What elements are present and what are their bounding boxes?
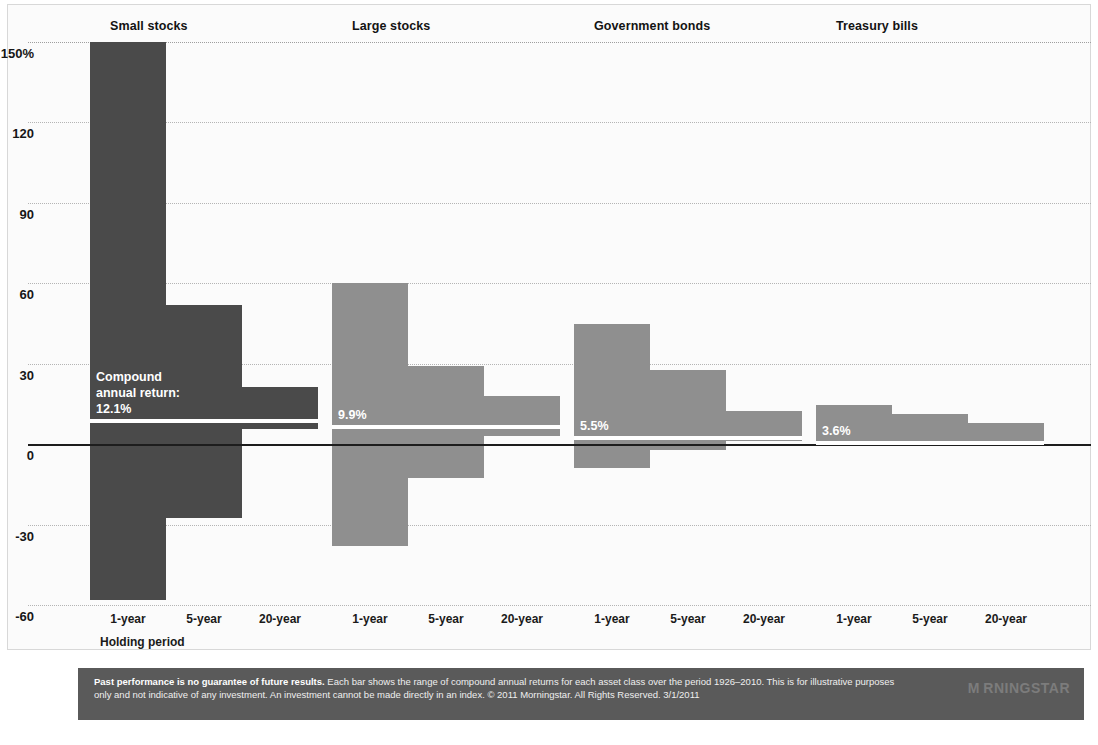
- category-header-large-stocks: Large stocks: [352, 19, 430, 33]
- compound-return-value-treasury-bills: 3.6%: [822, 424, 851, 438]
- y-axis-tick-label: 30: [0, 368, 34, 383]
- gridline: [28, 525, 1091, 526]
- category-header-small-stocks: Small stocks: [110, 19, 188, 33]
- bar-treasury-bills-20-year: [968, 423, 1044, 443]
- x-axis-tick-label: 20-year: [501, 612, 543, 626]
- x-axis-tick-label: 1-year: [352, 612, 387, 626]
- compound-return-caption: Compoundannual return:: [96, 369, 180, 401]
- gridline: [28, 122, 1091, 123]
- gridline: [28, 605, 1091, 606]
- compound-return-rule-large-stocks: [332, 425, 560, 429]
- bar-small-stocks-5-year: [166, 305, 242, 518]
- bar-large-stocks-5-year: [408, 366, 484, 477]
- compound-return-value-large-stocks: 9.9%: [338, 408, 367, 422]
- compound-return-rule-government-bonds: [574, 436, 802, 440]
- category-header-government-bonds: Government bonds: [594, 19, 710, 33]
- x-axis-tick-label: 5-year: [912, 612, 947, 626]
- x-axis-tick-label: 1-year: [836, 612, 871, 626]
- compound-return-value-government-bonds: 5.5%: [580, 419, 609, 433]
- gridline: [28, 203, 1091, 204]
- x-axis-tick-label: 20-year: [985, 612, 1027, 626]
- bar-small-stocks-1-year: [90, 42, 166, 600]
- chart-figure: Small stocks Large stocks Government bon…: [0, 0, 1098, 745]
- y-axis-tick-label: 150%: [0, 46, 34, 61]
- gridline: [28, 42, 1091, 43]
- bar-treasury-bills-5-year: [892, 414, 968, 443]
- x-axis-tick-label: 5-year: [670, 612, 705, 626]
- y-axis-tick-label: 90: [0, 207, 34, 222]
- x-axis-tick-label: 5-year: [428, 612, 463, 626]
- bar-government-bonds-1-year: [574, 324, 650, 469]
- gridline: [28, 283, 1091, 284]
- chart-panel: Small stocks Large stocks Government bon…: [7, 4, 1091, 650]
- disclaimer-text: Past performance is no guarantee of futu…: [94, 675, 914, 701]
- bar-large-stocks-20-year: [484, 396, 560, 436]
- x-axis-title: Holding period: [100, 635, 185, 649]
- x-axis-tick-label: 20-year: [259, 612, 301, 626]
- y-axis-tick-label: 60: [0, 287, 34, 302]
- y-axis-tick-label: 0: [0, 448, 34, 463]
- y-axis-tick-label: -60: [0, 609, 34, 624]
- compound-return-rule-treasury-bills: [816, 441, 1044, 445]
- x-axis-tick-label: 5-year: [186, 612, 221, 626]
- plot-area: 150%1209060300-30-6012.1%9.9%5.5%3.6%Com…: [28, 42, 1091, 605]
- x-axis-tick-label: 1-year: [110, 612, 145, 626]
- morningstar-logo: M RNINGSTAR: [968, 680, 1070, 696]
- disclaimer-footer: Past performance is no guarantee of futu…: [78, 668, 1084, 720]
- category-header-treasury-bills: Treasury bills: [836, 19, 918, 33]
- y-axis-tick-label: -30: [0, 529, 34, 544]
- y-axis-tick-label: 120: [0, 126, 34, 141]
- compound-return-value-small-stocks: 12.1%: [96, 402, 131, 416]
- compound-return-rule-small-stocks: [90, 419, 318, 423]
- x-axis-tick-label: 1-year: [594, 612, 629, 626]
- x-axis-tick-label: 20-year: [743, 612, 785, 626]
